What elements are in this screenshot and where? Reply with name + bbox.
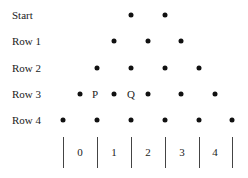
peg: [197, 118, 202, 123]
bin-divider: [63, 137, 64, 168]
row-label-2: Row 2: [12, 62, 41, 74]
bin-label-2: 2: [145, 146, 151, 158]
peg: [112, 92, 117, 97]
peg: [179, 39, 184, 44]
bin-divider: [165, 137, 166, 168]
peg: [129, 13, 134, 18]
peg: [129, 66, 134, 71]
bin-divider: [97, 137, 98, 168]
peg: [197, 66, 202, 71]
bin-divider: [131, 137, 132, 168]
peg: [146, 39, 151, 44]
bin-label-1: 1: [111, 146, 117, 158]
marker-q: Q: [127, 88, 135, 100]
row-label-1: Row 1: [12, 35, 41, 47]
bin-divider: [199, 137, 200, 168]
marker-p: P: [92, 88, 98, 100]
bin-label-4: 4: [212, 146, 218, 158]
bin-label-0: 0: [77, 146, 83, 158]
peg: [163, 13, 168, 18]
peg: [213, 92, 218, 97]
row-label-3: Row 3: [12, 88, 41, 100]
peg: [230, 118, 235, 123]
peg: [129, 118, 134, 123]
row-label-4: Row 4: [12, 114, 41, 126]
peg: [95, 66, 100, 71]
peg: [179, 92, 184, 97]
peg: [95, 118, 100, 123]
peg: [146, 92, 151, 97]
peg: [163, 66, 168, 71]
peg: [163, 118, 168, 123]
bin-label-3: 3: [179, 146, 185, 158]
peg: [112, 39, 117, 44]
bin-divider: [232, 137, 233, 168]
row-label-start: Start: [12, 9, 33, 21]
peg: [78, 92, 83, 97]
peg: [61, 118, 66, 123]
